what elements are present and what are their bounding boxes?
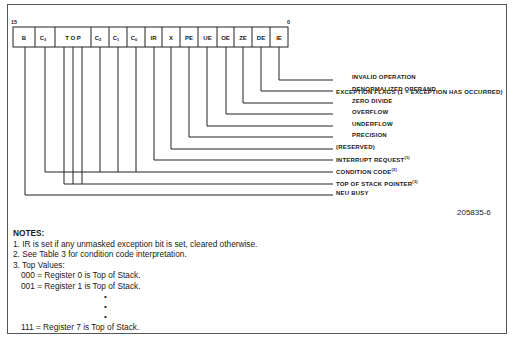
ellipsis-dot: • xyxy=(13,292,257,302)
flag-precision: PRECISION xyxy=(352,132,387,138)
cell-c2: C2 xyxy=(95,35,102,43)
flag-denormalized-operand: DENORMALIZED OPERAND xyxy=(352,86,436,92)
cell-de: DE xyxy=(257,35,265,41)
field-reserved: (RESERVED) xyxy=(336,144,375,150)
ellipsis-dot: • xyxy=(13,302,257,312)
top-value-001: 001 = Register 1 is Top of Stack. xyxy=(13,281,257,292)
note-1: 1. IR is set if any unmasked exception b… xyxy=(13,239,257,250)
cell-pe: PE xyxy=(185,35,193,41)
figure-id: 205835-6 xyxy=(457,208,491,217)
cell-ie: IE xyxy=(276,35,282,41)
field-interrupt-request: INTERRUPT REQUEST(1) xyxy=(336,155,410,163)
cell-ir: IR xyxy=(151,35,158,41)
note-2: 2. See Table 3 for condition code interp… xyxy=(13,249,257,260)
flag-zero-divide: ZERO DIVIDE xyxy=(352,98,393,104)
top-value-111: 111 = Register 7 is Top of Stack. xyxy=(13,322,257,333)
cell-top: T O P xyxy=(65,35,81,41)
field-condition-code: CONDITION CODE(2) xyxy=(336,167,397,175)
notes-title: NOTES: xyxy=(13,228,257,239)
cell-c1: C1 xyxy=(113,35,120,43)
notes-section: NOTES: 1. IR is set if any unmasked exce… xyxy=(13,228,257,333)
cell-oe: OE xyxy=(221,35,230,41)
flag-invalid-operation: INVALID OPERATION xyxy=(352,74,416,80)
flag-underflow: UNDERFLOW xyxy=(352,121,393,127)
field-top-of-stack-pointer: TOP OF STACK POINTER(3) xyxy=(336,179,418,187)
cell-x: X xyxy=(169,35,173,41)
field-neu-busy: NEU BUSY xyxy=(336,190,369,196)
top-value-000: 000 = Register 0 is Top of Stack. xyxy=(13,270,257,281)
cell-ue: UE xyxy=(203,35,211,41)
cell-b: B xyxy=(22,35,27,41)
cell-c0: C0 xyxy=(131,35,138,43)
note-3: 3. Top Values: xyxy=(13,260,257,271)
ellipsis-dot: • xyxy=(13,312,257,322)
cell-ze: ZE xyxy=(239,35,247,41)
flag-overflow: OVERFLOW xyxy=(352,109,388,115)
cell-c3: C3 xyxy=(40,35,47,43)
